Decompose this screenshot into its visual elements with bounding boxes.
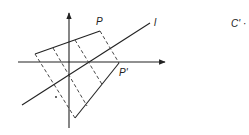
projection-diagram: P P' l C' ·: [0, 0, 249, 135]
projection-line-2: [75, 40, 103, 86]
projection-line-1: [53, 48, 87, 106]
edge-left-to-p: [35, 31, 100, 54]
label-c-prime: C' ·: [231, 18, 246, 29]
line-l: [22, 23, 150, 105]
label-p: P: [96, 16, 103, 27]
label-line-l: l: [154, 17, 157, 28]
label-p-prime: P': [119, 67, 129, 78]
point-dot: [55, 96, 57, 98]
edge-p-prime-to-bottom: [75, 63, 119, 118]
edge-p-to-p-prime: [100, 31, 119, 63]
